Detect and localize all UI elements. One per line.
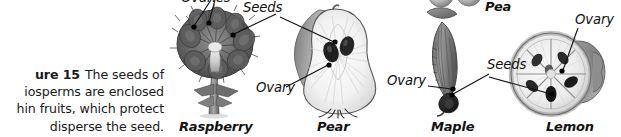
caption-line-1: ure 15The seeds of: [0, 66, 164, 83]
lemon-seeds-leader-line: [489, 74, 561, 100]
panel-label-pear: Pear: [317, 119, 349, 134]
caption-text-1: The seeds of: [85, 67, 164, 82]
lemon-ovary-leader-line: [556, 28, 586, 76]
callout-maple-seeds: Seeds: [487, 57, 526, 72]
figure-angiosperm-fruits: ure 15The seeds of iosperms are enclosed…: [0, 0, 621, 137]
pear-seeds-leader-line: [280, 13, 342, 45]
panel-label-maple: Maple: [431, 119, 474, 134]
callout-lemon-ovary: Ovary: [575, 12, 614, 27]
callout-pear-ovary: Ovary: [256, 80, 295, 95]
callout-raspberry-ovaries: Ovaries: [181, 0, 231, 5]
callout-maple-ovary: Ovary: [387, 73, 426, 88]
figure-number: ure 15: [35, 67, 80, 82]
panel-label-raspberry: Raspberry: [179, 119, 252, 134]
panel-label-lemon: Lemon: [546, 119, 594, 134]
maple-seeds-leader-line: [447, 72, 491, 98]
figure-caption: ure 15The seeds of iosperms are enclosed…: [0, 66, 164, 135]
panel-label-pea: Pea: [485, 0, 511, 14]
callout-raspberry-seeds: Seeds: [243, 0, 282, 15]
caption-line-4: disperse the seed.: [0, 118, 164, 135]
caption-line-2: iosperms are enclosed: [0, 83, 164, 100]
caption-line-3: hin fruits, which protect: [0, 100, 164, 117]
raspberry-seeds-leader-line: [225, 12, 280, 42]
